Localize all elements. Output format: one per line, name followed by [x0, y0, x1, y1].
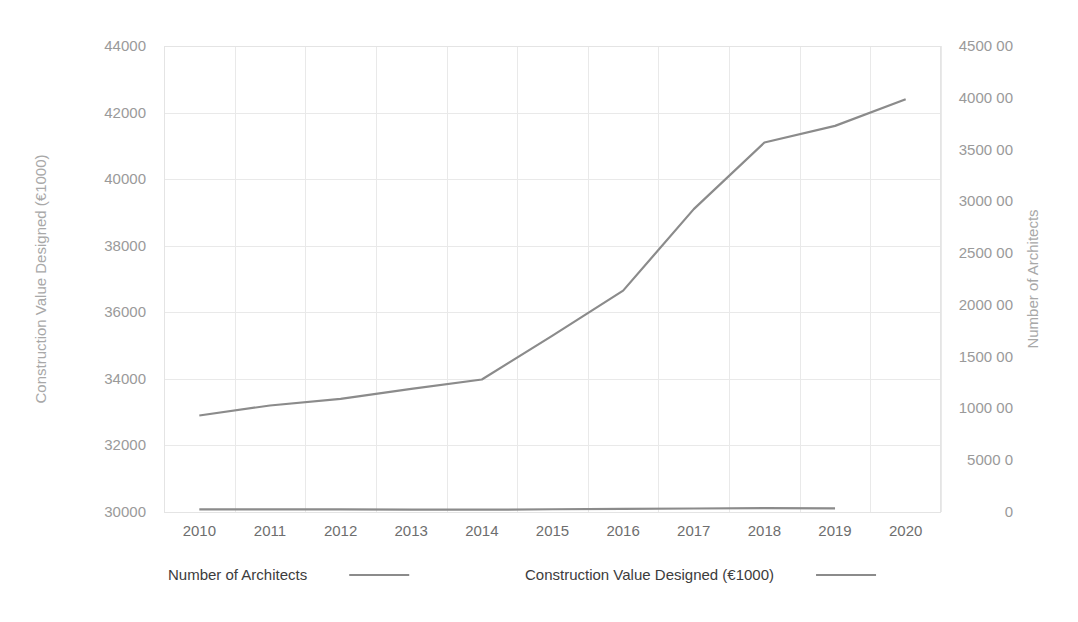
- x-axis-tick-label: 2018: [748, 522, 781, 539]
- y-axis-left-tick-label: 40000: [104, 170, 146, 187]
- y-axis-left-tick-label: 38000: [104, 237, 146, 254]
- x-axis-tick-label: 2015: [536, 522, 569, 539]
- x-axis-tick-label: 2016: [606, 522, 639, 539]
- y-axis-right-tick-label: 4500 00: [959, 37, 1013, 54]
- y-axis-left-tick-label: 44000: [104, 37, 146, 54]
- x-axis-tick-label: 2013: [395, 522, 428, 539]
- dual-axis-line-chart: 4400042000400003800036000340003200030000…: [0, 0, 1078, 622]
- y-axis-left-tick-label: 34000: [104, 370, 146, 387]
- y-axis-right-tick-label: 4000 00: [959, 89, 1013, 106]
- y-axis-right-tick-label: 0: [1005, 503, 1013, 520]
- y-axis-left-tick-label: 32000: [104, 436, 146, 453]
- x-axis-tick-label: 2014: [465, 522, 498, 539]
- y-axis-right-tick-label: 1000 00: [959, 399, 1013, 416]
- x-axis-tick-label: 2012: [324, 522, 357, 539]
- x-axis-tick-label: 2017: [677, 522, 710, 539]
- y-axis-right-title: Number of Architects: [1024, 209, 1041, 348]
- y-axis-right-tick-label: 1500 00: [959, 348, 1013, 365]
- chart-container: 4400042000400003800036000340003200030000…: [0, 0, 1078, 622]
- x-axis-tick-label: 2011: [254, 522, 286, 539]
- y-axis-right-tick-label: 2500 00: [959, 244, 1013, 261]
- y-axis-left-tick-label: 36000: [104, 303, 146, 320]
- x-axis-tick-label: 2010: [183, 522, 216, 539]
- x-axis-tick-label: 2020: [889, 522, 922, 539]
- y-axis-right-tick-label: 3500 00: [959, 141, 1013, 158]
- legend-label-construction-value[interactable]: Construction Value Designed (€1000): [525, 566, 774, 583]
- legend-label-architects[interactable]: Number of Architects: [168, 566, 307, 583]
- y-axis-right-tick-label: 3000 00: [959, 192, 1013, 209]
- y-axis-left-title: Construction Value Designed (€1000): [32, 154, 49, 403]
- y-axis-left-tick-label: 30000: [104, 503, 146, 520]
- x-axis-tick-label: 2019: [818, 522, 851, 539]
- y-axis-right-tick-label: 5000 0: [967, 451, 1013, 468]
- y-axis-left-tick-label: 42000: [104, 104, 146, 121]
- y-axis-right-tick-label: 2000 00: [959, 296, 1013, 313]
